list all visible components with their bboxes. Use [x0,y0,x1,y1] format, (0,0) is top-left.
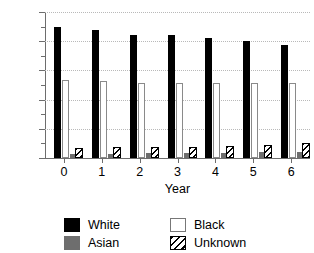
bar-unknown [226,146,234,158]
bar-unknown [302,143,310,158]
legend-label-unknown: Unknown [194,237,294,250]
legend-label-asian: Asian [88,237,170,250]
bar-white [281,45,288,158]
x-tick-label: 1 [98,166,105,179]
x-tick [291,158,292,163]
x-tick [140,158,141,163]
bar-black [62,80,69,158]
x-tick-label: 2 [136,166,143,179]
bar-chart: 0500010000150002000025000 0123456 Year W… [0,0,314,253]
x-tick-label: 5 [250,166,257,179]
bar-group [196,12,234,158]
bar-white [205,38,212,158]
bar-black [100,81,107,158]
bar-white [92,30,99,158]
solid-gray-swatch [64,236,80,250]
x-tick-label: 3 [174,166,181,179]
x-tick-label: 6 [288,166,295,179]
y-tick [39,158,45,159]
bar-unknown [113,147,121,158]
bar-unknown [189,147,197,158]
bar-white [130,35,137,158]
open-white-swatch [170,218,186,232]
bar-group [159,12,197,158]
bar-white [243,41,250,158]
x-tick-label: 0 [61,166,68,179]
x-axis-title: Year [45,183,310,196]
bar-unknown [264,145,272,158]
bar-white [54,27,61,158]
solid-black-swatch [64,218,80,232]
x-tick [64,158,65,163]
x-tick-label: 4 [212,166,219,179]
x-tick [102,158,103,163]
bar-white [168,35,175,158]
legend-label-white: White [88,219,170,232]
bar-group [121,12,159,158]
bar-black [251,83,258,158]
hatched-swatch [170,236,186,250]
bar-group [234,12,272,158]
x-tick [178,158,179,163]
x-tick [253,158,254,163]
bar-group [83,12,121,158]
chart-legend: White Black Asian Unknown [64,216,294,252]
bar-black [176,83,183,158]
bar-black [213,83,220,158]
plot-area: 0500010000150002000025000 [45,12,310,158]
bar-group [45,12,83,158]
bar-unknown [151,147,159,158]
x-tick [215,158,216,163]
bar-black [138,83,145,158]
bar-black [289,83,296,158]
legend-label-black: Black [194,219,294,232]
bar-group [272,12,310,158]
bar-unknown [75,148,83,159]
